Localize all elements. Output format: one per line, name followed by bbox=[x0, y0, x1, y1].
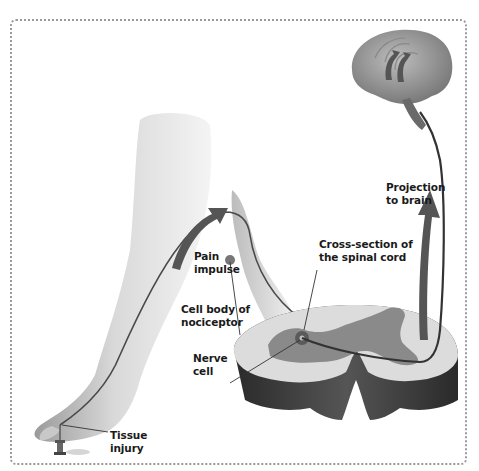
label-nerve-cell: Nerve cell bbox=[193, 352, 228, 377]
label-cell-body-of-nociceptor: Cell body of nociceptor bbox=[181, 303, 250, 328]
label-pain-impulse: Pain impulse bbox=[194, 250, 240, 275]
pain-pathway-illustration bbox=[0, 0, 479, 471]
label-cross-section-spinal-cord: Cross-section of the spinal cord bbox=[319, 238, 413, 263]
brain bbox=[352, 30, 452, 130]
label-tissue-injury: Tissue injury bbox=[110, 429, 147, 454]
projection-arrow-icon bbox=[418, 190, 440, 340]
label-projection-to-brain: Projection to brain bbox=[386, 181, 445, 206]
